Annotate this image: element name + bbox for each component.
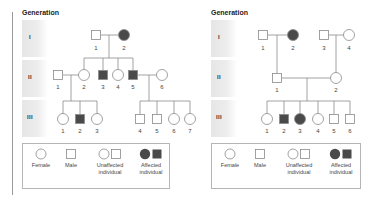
individual-number: 3 [322, 45, 326, 51]
legend-box: Female Male Unaffected individual Affect… [211, 143, 361, 189]
individual-number: 6 [348, 128, 352, 134]
individual-number: 2 [282, 128, 286, 134]
female-icon [224, 148, 236, 160]
female-unaffected-icon [344, 30, 355, 41]
individual-number: 5 [332, 128, 336, 134]
individual-number: 4 [316, 128, 320, 134]
affected-icons [138, 148, 164, 160]
male-unaffected-icon [320, 31, 329, 40]
unaffected-icons [97, 148, 123, 160]
female-unaffected-icon [262, 114, 273, 125]
female-affected-icon [295, 114, 306, 125]
female-unaffected-icon [331, 73, 342, 84]
individual-number: 2 [334, 87, 338, 93]
female-unaffected-icon [313, 114, 324, 125]
individual-number: 1 [275, 87, 279, 93]
female-affected-icon [288, 30, 299, 41]
right-pedigree-tree: 1 2 3 4 1 2 1 2 3 4 5 6 [0, 0, 381, 145]
affected-icons [328, 148, 354, 160]
legend-female: Female [218, 148, 242, 169]
male-unaffected-icon [330, 115, 339, 124]
legend-unaffected: Unaffected individual [93, 148, 127, 176]
individual-number: 1 [265, 128, 269, 134]
legend-affected: Affected individual [135, 148, 167, 176]
individual-number: 1 [261, 45, 265, 51]
individual-number: 2 [291, 45, 295, 51]
legend-male: Male [61, 148, 81, 169]
unaffected-icons [286, 148, 312, 160]
individual-number: 4 [347, 45, 351, 51]
female-icon [35, 148, 47, 160]
male-icon [254, 148, 266, 160]
male-unaffected-icon [346, 115, 355, 124]
male-unaffected-icon [259, 31, 268, 40]
legend-unaffected: Unaffected individual [282, 148, 316, 176]
individual-number: 3 [298, 128, 302, 134]
legend-female: Female [29, 148, 53, 169]
legend-male: Male [250, 148, 270, 169]
male-affected-icon [280, 115, 289, 124]
legend-affected: Affected individual [325, 148, 357, 176]
male-icon [65, 148, 77, 160]
male-unaffected-icon [273, 74, 282, 83]
legend-box: Female Male Unaffected individual Affect… [22, 143, 170, 189]
